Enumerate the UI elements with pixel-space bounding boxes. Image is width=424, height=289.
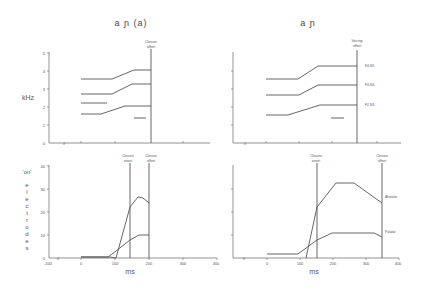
tick-label: 0 <box>80 261 83 266</box>
svg-text:e: e <box>25 196 29 202</box>
svg-text:r: r <box>26 217 28 223</box>
tick-label: 1 <box>43 123 46 128</box>
tick-label: 100 <box>112 261 119 266</box>
marker-label: offset <box>378 159 386 163</box>
tick-label: 4 <box>43 69 46 74</box>
tick-label: 2 <box>43 105 46 110</box>
tick-label: 100 <box>297 261 304 266</box>
tick-label: 200 <box>146 261 153 266</box>
tick-label: 40 <box>41 164 46 169</box>
tick-label: 0 <box>43 141 46 146</box>
marker-label: Voicing <box>352 39 363 43</box>
figure: a ɲ (a) a ɲ 5 4 3 2 1 0 // kHz Closure o… <box>0 0 424 289</box>
svg-text:e: e <box>25 238 29 244</box>
x-axis-label: ms <box>125 268 135 275</box>
tick-label: 200 <box>330 261 337 266</box>
panel-bottom-left: 40 30 20 10 0 // -100 0 100 200 300 400 … <box>23 154 221 275</box>
tick-label: 400 <box>395 261 402 266</box>
legend-alveolar: Alveolar <box>385 195 398 199</box>
formant-f2 <box>266 105 357 115</box>
tick-label: 5 <box>43 51 46 56</box>
legend-f4: F4-N5 <box>365 64 375 68</box>
tick-label: 10 <box>41 233 46 238</box>
tick-label: 3 <box>43 87 46 92</box>
marker-label: Closure <box>145 154 157 158</box>
tick-label: 300 <box>180 261 187 266</box>
svg-text:e: e <box>25 182 29 188</box>
svg-text:c: c <box>26 203 29 209</box>
marker-label: offset <box>147 159 155 163</box>
panel-bottom-right: // 0 100 200 300 400 ms Closure onset Cl… <box>231 154 402 275</box>
panel-top-left: 5 4 3 2 1 0 // kHz Closure offset <box>22 40 210 146</box>
palatal-trace <box>267 233 382 254</box>
svg-text:o: o <box>25 224 29 230</box>
legend-palatal: Palatal <box>385 230 396 234</box>
title-left: a ɲ (a) <box>114 18 147 28</box>
svg-text:d: d <box>25 231 28 237</box>
y-axis-label: 'on' <box>23 169 32 175</box>
marker-label: offset <box>353 44 361 48</box>
legend-f2: F2-N3 <box>365 103 375 107</box>
tick-label: 20 <box>41 210 46 215</box>
marker-label: onset <box>312 159 320 163</box>
formant-f4 <box>266 66 357 79</box>
y-axis-label-electrodes: e l e c t r o d e s <box>25 182 29 251</box>
y-axis-label: kHz <box>22 94 35 101</box>
y-ticks: 5 4 3 2 1 0 <box>43 51 49 146</box>
legend-f3: F3-N4 <box>365 83 375 87</box>
marker-label: Closure <box>145 40 157 44</box>
formant-f3 <box>81 84 151 94</box>
tick-label: -100 <box>44 261 53 266</box>
palatal-trace <box>81 235 149 257</box>
x-axis-label: ms <box>309 268 319 275</box>
alveolar-trace <box>81 197 149 258</box>
marker-label: Closure <box>376 154 388 158</box>
marker-label: Closure <box>310 154 322 158</box>
tick-label: 300 <box>363 261 370 266</box>
title-right: a ɲ <box>300 18 316 28</box>
marker-label: offset <box>147 45 155 49</box>
marker-label: Closure <box>122 154 134 158</box>
formant-f3 <box>266 85 357 95</box>
marker-label: onset <box>124 159 132 163</box>
tick-label: 0 <box>266 261 269 266</box>
svg-text:s: s <box>26 245 29 251</box>
panel-top-right: // Voicing offset F4-N5 F3-N4 F2-N3 <box>231 39 401 146</box>
formant-f2 <box>81 106 151 114</box>
formant-f4 <box>81 70 151 79</box>
svg-text:t: t <box>26 210 28 216</box>
tick-label: 30 <box>41 187 46 192</box>
svg-text:l: l <box>26 189 27 195</box>
tick-label: 400 <box>213 261 220 266</box>
